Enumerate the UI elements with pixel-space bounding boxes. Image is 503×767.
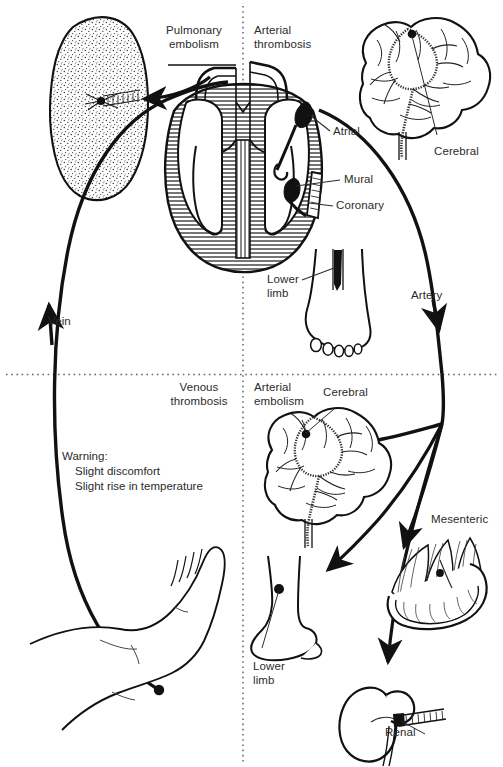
label-arterial-thrombosis: Arterial thrombosis xyxy=(254,24,350,51)
warning-block: Warning: Slight discomfort Slight rise i… xyxy=(62,449,190,494)
foot-front-illustration xyxy=(302,249,370,357)
label-cerebral-upper: Cerebral xyxy=(434,145,479,159)
heart-illustration xyxy=(165,62,322,272)
artery-loop-lower xyxy=(442,374,444,424)
pulmonary-embolus-marker xyxy=(97,97,105,105)
lower-limb-embolus-marker-lower xyxy=(274,584,284,594)
thromboembolism-diagram xyxy=(0,0,503,767)
diagram-page: Pulmonary embolism Arterial thrombosis A… xyxy=(0,0,503,767)
heart-septum xyxy=(236,140,250,258)
warning-heading: Warning: xyxy=(62,449,190,464)
label-pulmonary-embolism: Pulmonary embolism xyxy=(152,24,236,51)
label-arterial-embolism: Arterial embolism xyxy=(254,381,304,408)
label-artery: Artery xyxy=(411,289,442,303)
leg-foot-outline xyxy=(30,547,225,730)
mesenteric-embolus-marker xyxy=(436,569,444,577)
foot-side-outline xyxy=(251,556,316,660)
foot-side-illustration xyxy=(251,556,322,660)
leg-foot-illustration xyxy=(30,547,225,730)
label-atrial: Atrial xyxy=(333,125,360,139)
lung-outline xyxy=(50,17,148,200)
label-mesenteric: Mesenteric xyxy=(431,513,488,527)
label-renal: Renal xyxy=(385,726,416,740)
brain-upper-illustration xyxy=(360,18,490,160)
warning-line-2: Slight rise in temperature xyxy=(75,479,203,494)
lung-illustration xyxy=(50,17,148,200)
renal-embolus-marker xyxy=(393,713,405,727)
intestine-mesenteric-illustration xyxy=(388,538,487,629)
label-venous-thrombosis: Venous thrombosis xyxy=(163,381,235,408)
label-lower-limb-upper: Lower limb xyxy=(267,273,299,300)
label-vein: Vein xyxy=(48,315,71,329)
label-lower-limb-lower: Lower limb xyxy=(253,660,285,687)
warning-line-1: Slight discomfort xyxy=(75,464,203,479)
label-cerebral-lower: Cerebral xyxy=(323,386,368,400)
venous-thrombus-origin-marker xyxy=(154,685,164,695)
label-coronary: Coronary xyxy=(336,199,384,213)
brain-upper-outline xyxy=(360,18,490,138)
label-mural: Mural xyxy=(344,173,373,187)
